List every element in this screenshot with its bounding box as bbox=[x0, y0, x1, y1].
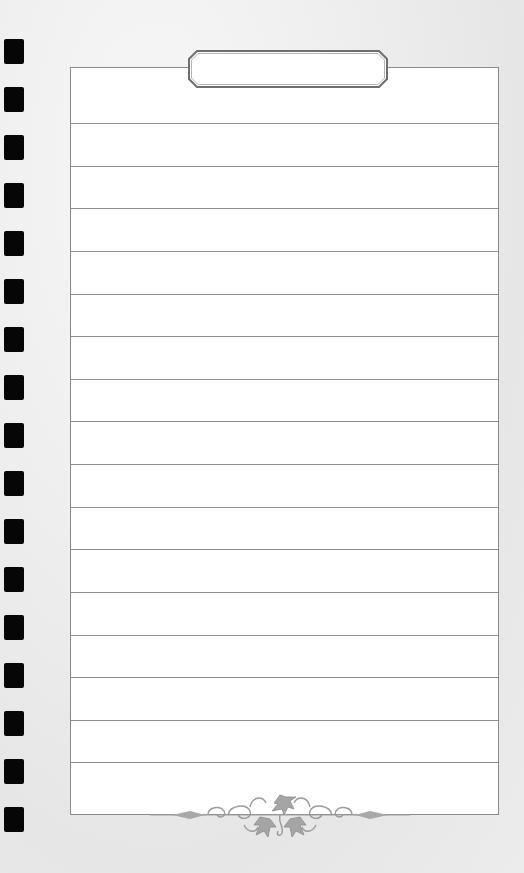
binder-hole bbox=[4, 711, 24, 736]
title-label-box[interactable] bbox=[188, 50, 388, 88]
binder-hole bbox=[4, 471, 24, 496]
binder-hole bbox=[4, 759, 24, 784]
binder-hole bbox=[4, 615, 24, 640]
writing-line[interactable] bbox=[71, 166, 498, 167]
binder-hole bbox=[4, 231, 24, 256]
lined-page bbox=[70, 67, 499, 815]
writing-line[interactable] bbox=[71, 464, 498, 465]
writing-line[interactable] bbox=[71, 208, 498, 209]
label-frame-icon bbox=[188, 50, 388, 88]
writing-line[interactable] bbox=[71, 549, 498, 550]
writing-line[interactable] bbox=[71, 421, 498, 422]
binder-hole bbox=[4, 375, 24, 400]
binder-hole bbox=[4, 663, 24, 688]
writing-line[interactable] bbox=[71, 635, 498, 636]
writing-line[interactable] bbox=[71, 592, 498, 593]
binder-hole bbox=[4, 135, 24, 160]
binder-hole bbox=[4, 807, 24, 832]
binder-hole bbox=[4, 183, 24, 208]
writing-line[interactable] bbox=[71, 123, 498, 124]
binder-hole bbox=[4, 327, 24, 352]
writing-line[interactable] bbox=[71, 294, 498, 295]
writing-line[interactable] bbox=[71, 251, 498, 252]
writing-line[interactable] bbox=[71, 762, 498, 763]
binder-hole bbox=[4, 39, 24, 64]
binder-hole bbox=[4, 567, 24, 592]
writing-line[interactable] bbox=[71, 379, 498, 380]
floral-vine-flourish-icon bbox=[150, 785, 410, 845]
writing-line[interactable] bbox=[71, 507, 498, 508]
writing-line[interactable] bbox=[71, 336, 498, 337]
binder-hole bbox=[4, 423, 24, 448]
binder-hole bbox=[4, 279, 24, 304]
binder-hole bbox=[4, 87, 24, 112]
binder-hole bbox=[4, 519, 24, 544]
writing-line[interactable] bbox=[71, 677, 498, 678]
writing-line[interactable] bbox=[71, 720, 498, 721]
